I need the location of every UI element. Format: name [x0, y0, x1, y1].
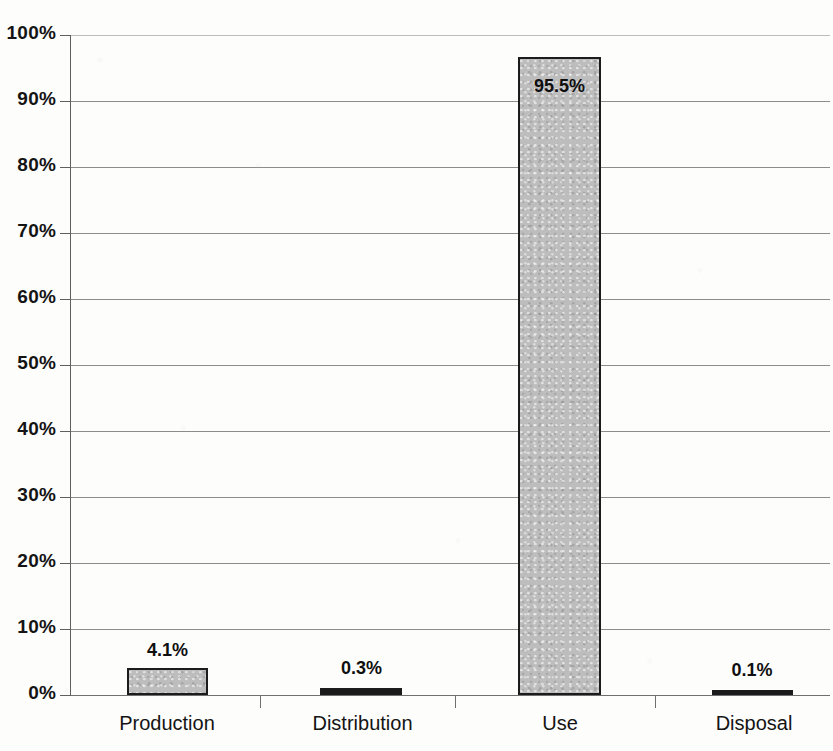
x-tick-1 [260, 696, 261, 708]
x-label-disposal: Disposal [690, 712, 818, 735]
y-tick-label-90: 90% [0, 88, 56, 110]
bar-label-distribution: 0.3% [306, 658, 417, 679]
y-tick-label-10: 10% [0, 616, 56, 638]
gridline-90 [70, 101, 830, 102]
y-tick-40 [60, 431, 71, 432]
gridline-20 [70, 563, 830, 564]
y-tick-label-40: 40% [0, 418, 56, 440]
bar-label-use: 95.5% [505, 76, 614, 97]
gridline-50 [70, 365, 830, 366]
y-tick-label-80: 80% [0, 154, 56, 176]
bar-use[interactable] [518, 57, 601, 695]
y-tick-label-100: 100% [0, 22, 56, 44]
x-tick-3 [655, 696, 656, 708]
x-label-use: Use [505, 712, 615, 735]
x-label-production: Production [102, 712, 232, 735]
y-tick-60 [60, 299, 71, 300]
y-tick-label-20: 20% [0, 550, 56, 572]
bar-label-disposal: 0.1% [692, 660, 812, 681]
gridline-30 [70, 497, 830, 498]
gridline-40 [70, 431, 830, 432]
bar-production[interactable] [127, 668, 208, 695]
y-tick-100 [60, 35, 71, 36]
y-tick-50 [60, 365, 71, 366]
bar-disposal[interactable] [712, 690, 793, 695]
gridline-10 [70, 629, 830, 630]
y-tick-10 [60, 629, 71, 630]
bar-chart: 100% 90% 80% 70% 60% 50% 40% 30% 20% 10%… [0, 0, 833, 751]
y-tick-20 [60, 563, 71, 564]
y-tick-label-60: 60% [0, 286, 56, 308]
gridline-100 [70, 35, 830, 36]
y-tick-70 [60, 233, 71, 234]
y-tick-0 [60, 695, 71, 696]
x-tick-2 [455, 696, 456, 708]
y-tick-label-70: 70% [0, 220, 56, 242]
y-tick-30 [60, 497, 71, 498]
gridline-80 [70, 167, 830, 168]
y-tick-label-50: 50% [0, 352, 56, 374]
bar-label-production: 4.1% [112, 640, 223, 661]
y-tick-label-30: 30% [0, 484, 56, 506]
gridline-0 [70, 695, 830, 696]
plot-area [70, 35, 830, 695]
y-tick-label-0: 0% [0, 682, 56, 704]
gridline-70 [70, 233, 830, 234]
y-tick-80 [60, 167, 71, 168]
y-tick-90 [60, 101, 71, 102]
x-label-distribution: Distribution [290, 712, 435, 735]
bar-distribution[interactable] [320, 688, 402, 695]
gridline-60 [70, 299, 830, 300]
